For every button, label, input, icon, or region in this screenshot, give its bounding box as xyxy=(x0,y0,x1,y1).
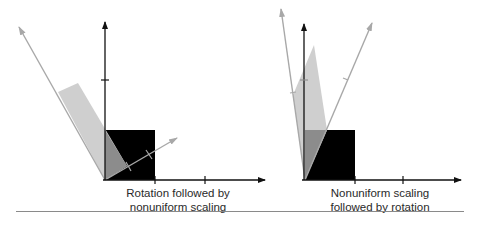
bottom-divider xyxy=(16,211,464,212)
transformed-y-axis xyxy=(19,27,105,180)
right-panel xyxy=(281,9,461,184)
transformed-tick xyxy=(343,78,348,80)
right-caption-line1: Nonuniform scaling xyxy=(318,186,442,200)
right-caption: Nonuniform scaling followed by rotation xyxy=(318,186,442,214)
left-panel xyxy=(19,22,265,184)
left-caption-line1: Rotation followed by xyxy=(118,186,238,200)
left-caption: Rotation followed by nonuniform scaling xyxy=(118,186,238,214)
